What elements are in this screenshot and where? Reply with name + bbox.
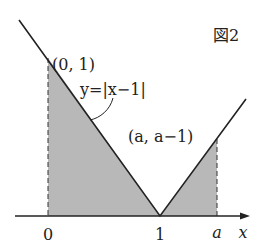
tick-label-0: 0 xyxy=(43,225,53,244)
point-label-a: (a, a−1) xyxy=(128,127,193,146)
tick-label-a: a xyxy=(212,223,222,242)
label-leader-line xyxy=(90,98,113,120)
point-label-0-1: (0, 1) xyxy=(52,55,95,74)
axis-label-x: x xyxy=(238,223,247,242)
figure-diagram: 図2 (0, 1) y=|x−1| (a, a−1) 0 1 a x xyxy=(0,0,262,247)
curve-label: y=|x−1| xyxy=(79,80,146,99)
figure-title: 図2 xyxy=(213,26,239,45)
tick-label-1: 1 xyxy=(155,225,165,244)
x-axis-arrow-icon xyxy=(240,213,250,220)
